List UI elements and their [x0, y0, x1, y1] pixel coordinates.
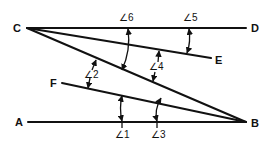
line-ce [27, 28, 211, 58]
angle-label-1: ∠1 [115, 129, 130, 140]
angle-label-4: ∠4 [149, 61, 164, 72]
angle-5-arc [187, 29, 190, 53]
point-label-b: B [251, 117, 259, 129]
angle-1-arc [121, 96, 123, 121]
angle-label-3: ∠3 [151, 129, 166, 140]
angle-6-arc [122, 29, 129, 70]
point-label-d: D [251, 22, 259, 34]
geometry-diagram: C D E F A B ∠6 ∠5 ∠4 ∠2 ∠1 ∠3 [0, 0, 270, 146]
point-label-f: F [50, 77, 57, 89]
angle-3-arc [156, 98, 161, 121]
point-label-e: E [215, 54, 222, 66]
angle-label-5: ∠5 [183, 12, 198, 23]
line-fb [62, 83, 246, 122]
angle-4-arc-bottom [153, 72, 155, 81]
line-cb [27, 28, 246, 122]
angle-label-2: ∠2 [84, 69, 99, 80]
angle-label-6: ∠6 [119, 12, 134, 23]
point-label-c: C [13, 22, 21, 34]
point-label-a: A [15, 116, 23, 128]
